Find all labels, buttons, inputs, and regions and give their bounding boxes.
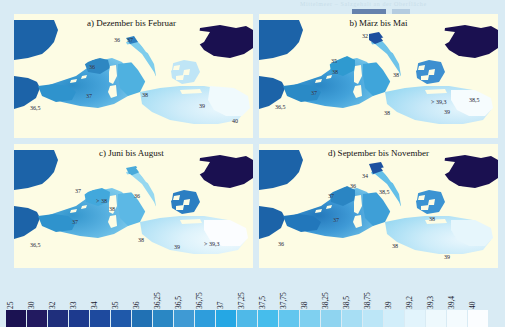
colorbar-tick-label: 32 (48, 302, 57, 310)
contour-label: 37 (86, 93, 92, 99)
colorbar-tick: 25 (6, 276, 27, 310)
colorbar-swatch (6, 310, 26, 327)
contour-label: > 38 (96, 198, 107, 204)
colorbar-tick: 33 (69, 276, 90, 310)
contour-label: 36 (114, 37, 120, 43)
colorbar-tick-label: 37,25 (237, 292, 246, 309)
contour-label: > 39,3 (204, 241, 219, 247)
colorbar-tick-label: 39 (384, 302, 393, 310)
colorbar-tick-label: 39,3 (426, 296, 435, 309)
contour-label: 38 (138, 237, 144, 243)
colorbar-swatch (258, 310, 278, 327)
contour-label: 36 (89, 64, 95, 70)
contour-label: 38 (392, 243, 398, 249)
colorbar-tick: 37,5 (258, 276, 279, 310)
contour-label: 39 (174, 244, 180, 250)
contour-label: 36,5 (30, 242, 41, 248)
contour-label: 38 (142, 92, 148, 98)
contour-label: 38,5 (379, 189, 390, 195)
colorbar-tick: 39,4 (447, 276, 468, 310)
colorbar-swatch (447, 310, 467, 327)
caption-remnant: Mittelmeer – Salzgehalt an der Oberfläch… (300, 1, 500, 9)
contour-label: 38 (109, 206, 115, 212)
panel-c: c) Juni bis August 37 > 38 38 36 37 36,5… (14, 144, 253, 268)
contour-label: 37 (72, 219, 78, 225)
panel-d-title: d) September bis November (259, 148, 498, 158)
colorbar-swatch (237, 310, 257, 327)
colorbar-swatch (27, 310, 47, 327)
contour-label: 36 (134, 193, 140, 199)
contour-label: 39 (199, 103, 205, 109)
panel-c-title: c) Juni bis August (14, 148, 253, 158)
colorbar-swatch (426, 310, 446, 327)
contour-label: 36,5 (30, 105, 41, 111)
colorbar-swatch (111, 310, 131, 327)
colorbar-tick: 36 (132, 276, 153, 310)
colorbar-tick: 34 (90, 276, 111, 310)
map-d (259, 144, 498, 268)
colorbar-tick-label: 40 (468, 302, 477, 310)
contour-label: 39 (444, 109, 450, 115)
map-a (14, 14, 253, 138)
colorbar-swatch (300, 310, 320, 327)
contour-label: 38,5 (469, 97, 480, 103)
colorbar-swatch (279, 310, 299, 327)
contour-label: 36 (278, 241, 284, 247)
colorbar-tick-label: 38 (300, 302, 309, 310)
colorbar-tick: 38,25 (321, 276, 342, 310)
contour-label: 36,5 (275, 104, 286, 110)
colorbar-tick-label: 37,75 (279, 292, 288, 309)
colorbar-tick-label: 36,5 (174, 296, 183, 309)
contour-label: 40 (232, 118, 238, 124)
colorbar-tick: 37 (216, 276, 237, 310)
colorbar-swatch (48, 310, 68, 327)
colorbar-tick: 38 (300, 276, 321, 310)
colorbar-tick: 39 (384, 276, 405, 310)
colorbar-tick-label: 35 (111, 302, 120, 310)
contour-label: 38 (384, 110, 390, 116)
contour-label: 37 (311, 90, 317, 96)
colorbar-tick: 32 (48, 276, 69, 310)
colorbar-tick: 38,5 (342, 276, 363, 310)
contour-label: 37 (75, 188, 81, 194)
panel-grid: a) Dezember bis Februar 36 37 36 37 36,5… (0, 14, 505, 270)
panel-d: d) September bis November 34 36 37 38,5 … (259, 144, 498, 268)
panel-a: a) Dezember bis Februar 36 37 36 37 36,5… (14, 14, 253, 138)
contour-label: 38 (429, 216, 435, 222)
contour-label: > 39,3 (431, 99, 446, 105)
colorbar-swatch (90, 310, 110, 327)
colorbar-swatches (6, 310, 489, 327)
colorbar-tick-label: 36 (132, 302, 141, 310)
colorbar-swatch (195, 310, 215, 327)
panel-b-title: b) März bis Mai (259, 18, 498, 28)
contour-label: 34 (362, 173, 368, 179)
colorbar-tick-label: 38,25 (321, 292, 330, 309)
colorbar-swatch (321, 310, 341, 327)
contour-label: 35 (331, 58, 337, 64)
contour-label: 39 (444, 254, 450, 260)
colorbar-tick: 38,75 (363, 276, 384, 310)
colorbar-swatch (405, 310, 425, 327)
colorbar-swatch (132, 310, 152, 327)
colorbar-tick: 39,3 (426, 276, 447, 310)
colorbar-swatch (384, 310, 404, 327)
colorbar-swatch (342, 310, 362, 327)
colorbar-tick-label: 34 (90, 302, 99, 310)
colorbar-tick: 36,25 (153, 276, 174, 310)
colorbar-swatch (153, 310, 173, 327)
colorbar-tick: 39,2 (405, 276, 426, 310)
contour-label: 37 (328, 193, 334, 199)
contour-label: 37 (333, 217, 339, 223)
contour-label: 38 (332, 69, 338, 75)
colorbar-tick-label: 36,25 (153, 292, 162, 309)
colorbar-tick-label: 25 (6, 302, 15, 310)
colorbar-tick: 30 (27, 276, 48, 310)
colorbar-legend: 2530323334353636,2536,536,753737,2537,53… (0, 276, 505, 327)
colorbar-swatch (468, 310, 488, 327)
contour-label: 38 (393, 72, 399, 78)
contour-label: 37 (127, 37, 133, 43)
contour-label: 32 (362, 33, 368, 39)
colorbar-tick-label: 37 (216, 302, 225, 310)
colorbar-tick-label: 30 (27, 302, 36, 310)
colorbar-tick-label: 36,75 (195, 292, 204, 309)
